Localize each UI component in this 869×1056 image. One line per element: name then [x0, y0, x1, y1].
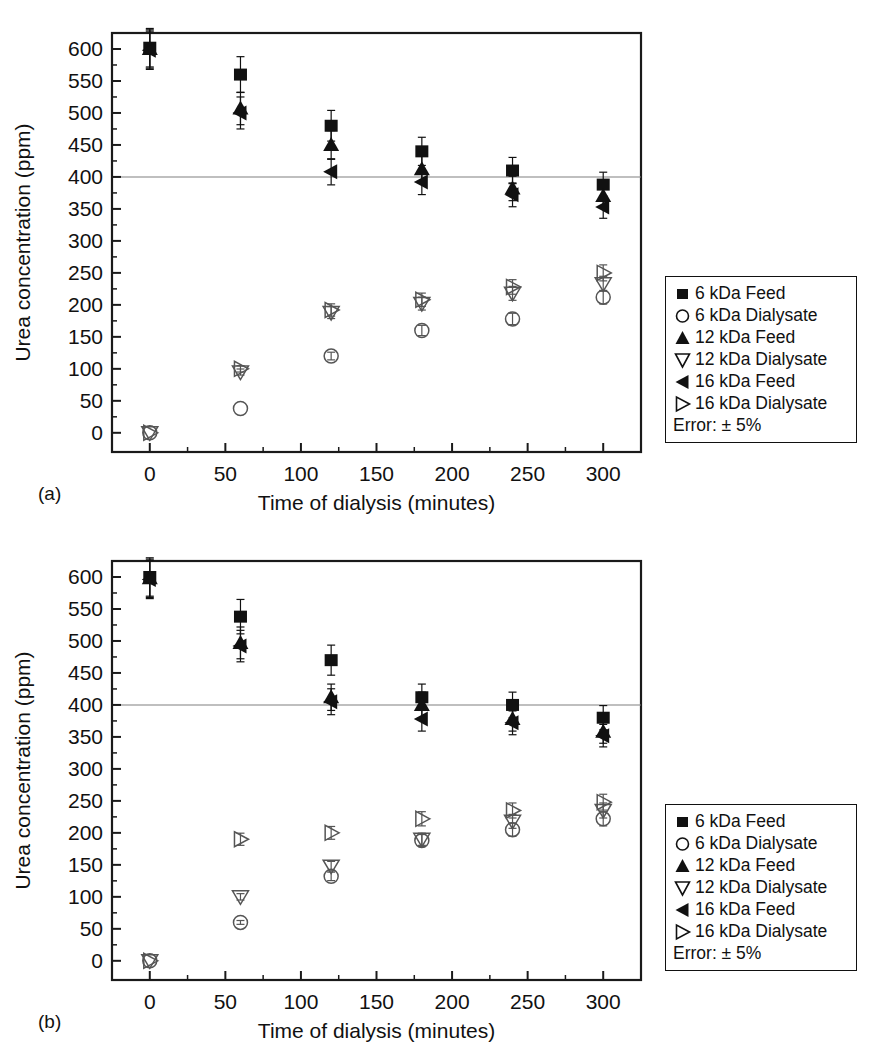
- y-tick-label: 500: [68, 629, 103, 652]
- y-tick-label: 400: [68, 165, 103, 188]
- triangle-right-glyph: [234, 832, 248, 847]
- legend-item-open-triangle-down[interactable]: 12 kDa Dialysate: [673, 876, 848, 898]
- x-tick-label: 50: [214, 462, 237, 485]
- y-tick-label: 600: [68, 565, 103, 588]
- y-tick-label: 250: [68, 789, 103, 812]
- legend-item-open-circle[interactable]: 6 kDa Dialysate: [673, 832, 848, 854]
- legend-symbol-filled-triangle-left: [673, 372, 694, 391]
- legend-item-label: 12 kDa Feed: [694, 855, 795, 876]
- y-tick-label: 50: [80, 389, 103, 412]
- y-tick-label: 0: [91, 421, 103, 444]
- plot-frame: [112, 561, 641, 980]
- panel-a: 0501001502002503003504004505005506000501…: [0, 0, 869, 528]
- legend-symbol-open-circle: [673, 834, 694, 853]
- x-tick-label: 250: [510, 990, 545, 1013]
- data-point-open-triangle-right: [325, 825, 339, 840]
- data-point-filled-square: [506, 165, 519, 177]
- panel-b: 0501001502002503003504004505005506000501…: [0, 528, 869, 1056]
- y-tick-label: 450: [68, 661, 103, 684]
- square-glyph: [234, 611, 247, 623]
- square-glyph: [597, 712, 610, 724]
- legend-item-label: 12 kDa Feed: [694, 327, 795, 348]
- square-glyph: [234, 69, 247, 81]
- square-glyph: [506, 165, 519, 177]
- y-tick-label: 200: [68, 821, 103, 844]
- triangle-right-glyph: [416, 811, 430, 826]
- triangle-up-glyph: [414, 161, 430, 175]
- x-tick-label: 150: [359, 462, 394, 485]
- legend-symbol-open-triangle-down: [673, 350, 694, 369]
- legend-item-filled-square[interactable]: 6 kDa Feed: [673, 810, 848, 832]
- data-point-filled-square: [234, 69, 247, 81]
- legend-symbol-open-triangle-right: [673, 394, 694, 413]
- y-tick-label: 0: [91, 949, 103, 972]
- legend-item-open-triangle-down[interactable]: 12 kDa Dialysate: [673, 348, 848, 370]
- square-glyph: [506, 699, 519, 711]
- y-tick-label: 100: [68, 885, 103, 908]
- data-point-filled-triangle-up: [323, 137, 339, 151]
- y-tick-label: 300: [68, 757, 103, 780]
- x-tick-label: 300: [586, 990, 621, 1013]
- legend-item-open-circle[interactable]: 6 kDa Dialysate: [673, 304, 848, 326]
- x-tick-label: 100: [283, 990, 318, 1013]
- y-tick-label: 350: [68, 725, 103, 748]
- legend-item-label: 6 kDa Dialysate: [694, 305, 818, 326]
- chart-a: 0501001502002503003504004505005506000501…: [0, 0, 660, 528]
- data-point-open-triangle-right: [234, 832, 248, 847]
- x-tick-label: 50: [214, 990, 237, 1013]
- legend-a: 6 kDa Feed6 kDa Dialysate12 kDa Feed12 k…: [665, 276, 857, 443]
- x-tick-label: 200: [435, 462, 470, 485]
- legend-error-note: Error: ± 5%: [673, 942, 848, 965]
- legend-item-label: 16 kDa Dialysate: [694, 393, 827, 414]
- legend-symbol-open-circle: [673, 306, 694, 325]
- x-tick-label: 300: [586, 462, 621, 485]
- panel-a-caption: (a): [38, 483, 61, 505]
- x-tick-label: 250: [510, 462, 545, 485]
- data-point-open-circle: [233, 402, 247, 416]
- circle-glyph: [233, 402, 247, 416]
- legend-item-label: 12 kDa Dialysate: [694, 349, 827, 370]
- legend-symbol-filled-square: [673, 812, 694, 831]
- legend-symbol-filled-triangle-up: [673, 328, 694, 347]
- y-tick-label: 150: [68, 325, 103, 348]
- x-tick-label: 0: [144, 462, 156, 485]
- error-bar: [236, 921, 244, 925]
- square-glyph: [325, 120, 338, 132]
- legend-symbol-filled-triangle-left: [673, 900, 694, 919]
- legend-error-note: Error: ± 5%: [673, 414, 848, 437]
- y-tick-label: 350: [68, 197, 103, 220]
- data-point-filled-square: [325, 654, 338, 666]
- plot-frame: [112, 33, 641, 452]
- legend-item-label: 6 kDa Dialysate: [694, 833, 818, 854]
- legend-item-filled-triangle-left[interactable]: 16 kDa Feed: [673, 898, 848, 920]
- x-tick-label: 200: [435, 990, 470, 1013]
- legend-item-open-triangle-right[interactable]: 16 kDa Dialysate: [673, 392, 848, 414]
- legend-symbol-filled-square: [673, 284, 694, 303]
- legend-symbol-filled-triangle-up: [673, 856, 694, 875]
- legend-item-label: 12 kDa Dialysate: [694, 877, 827, 898]
- y-tick-label: 50: [80, 917, 103, 940]
- y-tick-label: 100: [68, 357, 103, 380]
- legend-item-label: 16 kDa Feed: [694, 899, 795, 920]
- y-tick-label: 250: [68, 261, 103, 284]
- y-tick-label: 600: [68, 37, 103, 60]
- y-tick-label: 550: [68, 69, 103, 92]
- y-tick-label: 450: [68, 133, 103, 156]
- legend-item-label: 6 kDa Feed: [694, 811, 785, 832]
- panel-b-caption: (b): [38, 1011, 61, 1033]
- legend-item-filled-square[interactable]: 6 kDa Feed: [673, 282, 848, 304]
- legend-b: 6 kDa Feed6 kDa Dialysate12 kDa Feed12 k…: [665, 804, 857, 971]
- legend-item-label: 6 kDa Feed: [694, 283, 785, 304]
- x-tick-label: 150: [359, 990, 394, 1013]
- square-glyph: [415, 145, 428, 157]
- triangle-right-glyph: [325, 825, 339, 840]
- error-bar: [327, 352, 335, 360]
- figure-container: 0501001502002503003504004505005506000501…: [0, 0, 869, 1056]
- y-tick-label: 150: [68, 853, 103, 876]
- legend-item-filled-triangle-left[interactable]: 16 kDa Feed: [673, 370, 848, 392]
- legend-item-filled-triangle-up[interactable]: 12 kDa Feed: [673, 326, 848, 348]
- data-point-filled-triangle-up: [414, 161, 430, 175]
- legend-item-open-triangle-right[interactable]: 16 kDa Dialysate: [673, 920, 848, 942]
- y-tick-label: 500: [68, 101, 103, 124]
- legend-item-filled-triangle-up[interactable]: 12 kDa Feed: [673, 854, 848, 876]
